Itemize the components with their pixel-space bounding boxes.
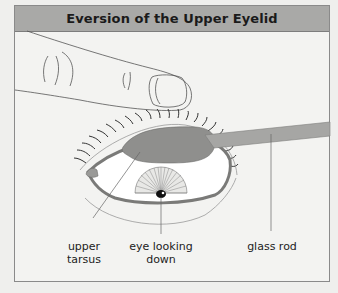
finger-icon: [15, 31, 192, 111]
caruncle-icon: [86, 168, 98, 177]
glass-rod-icon: [205, 122, 330, 148]
label-eye-looking-down: eye looking down: [126, 240, 196, 266]
label-upper-tarsus: upper tarsus: [64, 240, 104, 266]
label-glass-rod: glass rod: [240, 240, 304, 253]
